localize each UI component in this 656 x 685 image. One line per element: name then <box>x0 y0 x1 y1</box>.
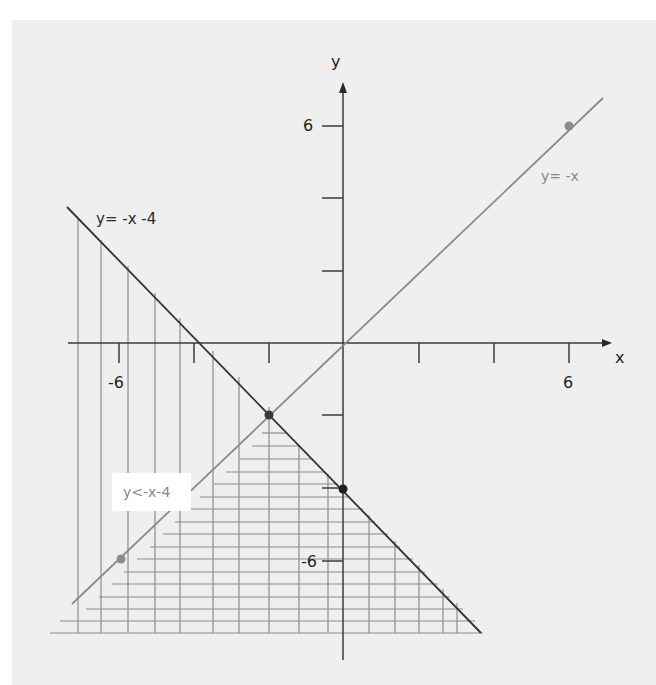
line2-label: y= -x <box>541 168 579 184</box>
horizontal-hatch <box>50 433 483 633</box>
x-axis-arrow-icon <box>602 339 612 347</box>
line-y-eq-x <box>72 98 603 604</box>
intersection-point <box>265 411 274 420</box>
y-axis-arrow-icon <box>339 82 347 93</box>
line1-label: y= -x -4 <box>96 210 156 228</box>
x-tick-label-6: 6 <box>563 373 573 392</box>
y-tick-label-neg6: -6 <box>301 552 317 571</box>
y-axis-label: y <box>331 52 340 71</box>
point-6-6 <box>565 122 574 131</box>
y-tick-label-6: 6 <box>303 116 313 135</box>
vertical-hatch <box>78 218 457 633</box>
chart-canvas <box>0 0 656 685</box>
y-intercept-point <box>339 485 348 494</box>
inequality-label: y<-x-4 <box>123 484 170 500</box>
point-neg6-neg6 <box>117 555 126 564</box>
x-tick-label-neg6: -6 <box>108 373 124 392</box>
line-y-eq-neg-x-minus-4 <box>67 207 481 633</box>
x-axis-label: x <box>615 348 624 367</box>
